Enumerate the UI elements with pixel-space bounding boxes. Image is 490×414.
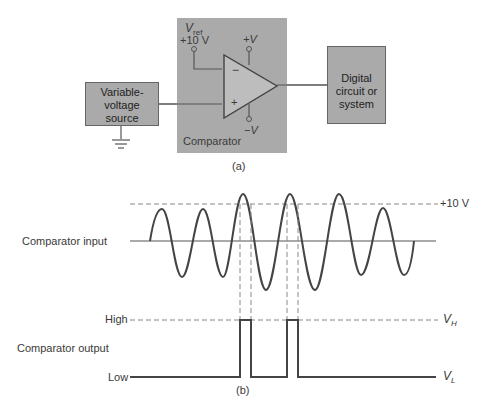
vref-v: V [185, 21, 193, 35]
inverting-input-sign: − [232, 63, 239, 77]
vref-value: +10 V [180, 34, 209, 46]
comparator-overlay [0, 0, 490, 414]
supply-neg-label: −V [244, 124, 258, 136]
non-inverting-input-sign: + [231, 96, 237, 108]
supply-pos-label: +V [243, 33, 257, 45]
comparator-label-visible: Comparator [183, 135, 241, 147]
